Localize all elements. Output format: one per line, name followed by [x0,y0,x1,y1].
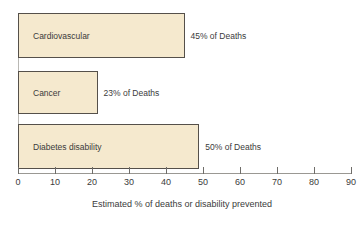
value-label-diabetes-disability: 50% of Deaths [205,142,261,151]
x-tick-label-30: 30 [124,178,134,187]
x-axis-line [18,173,351,174]
x-tick-label-70: 70 [272,178,282,187]
x-axis-title: Estimated % of deaths or disability prev… [0,200,364,209]
bar-cardiovascular: Cardiovascular [18,13,185,58]
x-tick-30 [129,167,130,174]
bar-diabetes-disability: Diabetes disability [18,124,199,169]
x-tick-label-10: 10 [50,178,60,187]
value-label-cardiovascular: 45% of Deaths [191,31,247,40]
x-tick-label-0: 0 [15,178,20,187]
x-tick-label-20: 20 [87,178,97,187]
x-tick-label-40: 40 [161,178,171,187]
x-tick-70 [277,167,278,174]
bar-label-cancer: Cancer [33,88,60,97]
x-tick-label-50: 50 [198,178,208,187]
x-tick-60 [240,167,241,174]
value-label-cancer: 23% of Deaths [104,88,160,97]
bar-chart: Cardiovascular 45% of Deaths Cancer 23% … [0,0,364,227]
x-tick-90 [351,167,352,174]
x-tick-label-60: 60 [235,178,245,187]
x-tick-0 [18,167,19,174]
x-tick-label-80: 80 [309,178,319,187]
plot-area: Cardiovascular 45% of Deaths Cancer 23% … [0,0,364,227]
x-tick-80 [314,167,315,174]
x-tick-10 [55,167,56,174]
x-tick-label-90: 90 [346,178,356,187]
x-tick-20 [92,167,93,174]
bar-label-cardiovascular: Cardiovascular [33,31,90,40]
bar-label-diabetes-disability: Diabetes disability [33,142,102,151]
x-tick-50 [203,167,204,174]
bar-cancer: Cancer [18,71,98,114]
x-tick-40 [166,167,167,174]
